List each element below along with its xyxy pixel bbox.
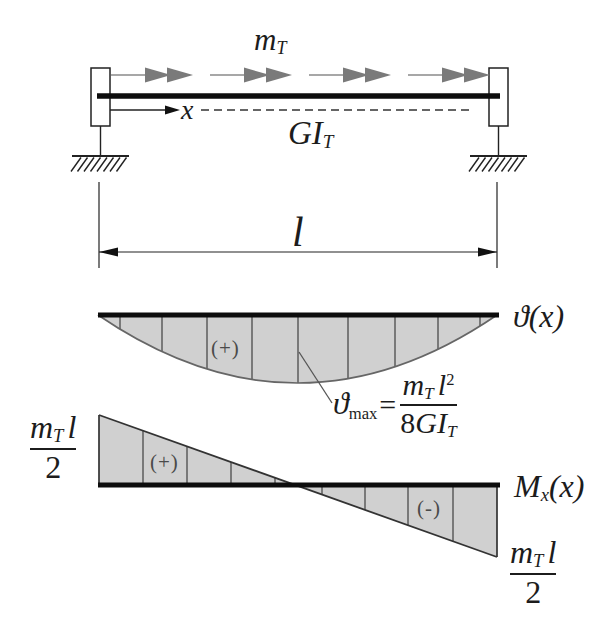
num-exponent: 2 <box>446 370 454 389</box>
num-m: m <box>402 368 424 401</box>
den-coeff: 8 <box>400 406 415 439</box>
moment-left-denominator: 2 <box>45 451 61 485</box>
theta-max-lhs: ϑmax <box>333 387 377 422</box>
den-var: GI <box>415 406 447 439</box>
moment-right-denominator: 2 <box>525 576 541 610</box>
moment-right-value: mTl 2 <box>508 536 558 609</box>
num-l: l <box>438 368 446 401</box>
theta-max-base: ϑ <box>333 385 349 421</box>
twist-positive-sign: (+) <box>211 338 240 359</box>
dimension-right-arrowhead <box>478 248 497 257</box>
theta-max-fraction: mTl2 8GIT <box>398 369 458 440</box>
moment-label-arg: (x) <box>549 468 585 504</box>
left-num-m-sub: T <box>53 425 63 446</box>
x-axis <box>110 106 473 115</box>
left-num-l: l <box>67 409 76 445</box>
distributed-torque-arrows <box>111 68 490 83</box>
x-axis-arrowhead <box>165 106 180 115</box>
moment-label-base: M <box>514 468 541 504</box>
right-num-m: m <box>510 534 533 570</box>
theta-max-formula: ϑmax = mTl2 8GIT <box>333 369 459 440</box>
num-m-sub: T <box>424 383 434 403</box>
theta-max-denominator: 8GIT <box>400 407 456 440</box>
stiffness-label-sub: T <box>323 131 334 152</box>
torsion-figure: mT x GIT l ϑ(x) (+) ϑmax = mTl2 8GIT mTl… <box>0 0 615 638</box>
moment-left-value: mTl 2 <box>28 411 78 484</box>
left-num-m: m <box>30 409 53 445</box>
equals-sign: = <box>379 390 396 420</box>
x-axis-label: x <box>181 96 193 124</box>
dimension-left-arrowhead <box>99 248 118 257</box>
stiffness-label: GIT <box>288 117 333 151</box>
theta-max-sub: max <box>349 404 378 423</box>
theta-max-numerator: mTl2 <box>402 369 454 402</box>
right-num-m-sub: T <box>533 550 543 571</box>
length-label: l <box>292 211 304 253</box>
moment-positive-sign: (+) <box>150 452 179 473</box>
load-label-base: m <box>254 22 276 57</box>
twist-diagram-label: ϑ(x) <box>513 300 564 332</box>
moment-diagram-label: Mx(x) <box>514 470 584 505</box>
moment-right-numerator: mTl <box>510 536 556 571</box>
right-ground-hatching <box>469 156 527 172</box>
load-label-sub: T <box>276 38 286 58</box>
right-num-l: l <box>547 534 556 570</box>
moment-left-numerator: mTl <box>30 411 76 446</box>
stiffness-label-base: GI <box>288 115 323 151</box>
moment-label-sub: x <box>541 484 549 505</box>
left-ground-hatching <box>71 156 129 172</box>
load-label: mT <box>254 24 286 57</box>
den-sub: T <box>447 421 457 441</box>
moment-negative-sign: (-) <box>417 498 441 519</box>
